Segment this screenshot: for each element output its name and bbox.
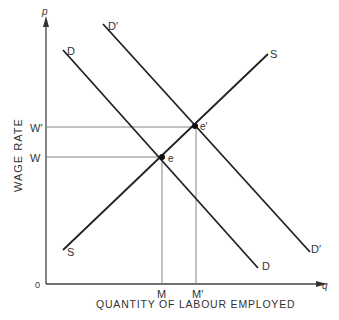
y-axis-label: WAGE RATE bbox=[12, 118, 24, 192]
m-label: M bbox=[157, 288, 166, 300]
demand-d-prime-bottom-label: D′ bbox=[311, 243, 321, 255]
y-axis-symbol: p bbox=[41, 6, 48, 17]
origin-label: 0 bbox=[35, 280, 40, 290]
demand-curve-d-prime bbox=[103, 24, 310, 252]
equilibrium-point-e bbox=[159, 154, 165, 160]
w-prime-label: W′ bbox=[30, 122, 42, 134]
labour-market-diagram: p q 0 WAGE RATE QUANTITY OF LABOUR EMPLO… bbox=[0, 0, 339, 320]
w-label: W bbox=[30, 152, 41, 164]
equilibrium-point-e-prime bbox=[192, 123, 198, 129]
demand-d-top-label: D bbox=[67, 45, 75, 57]
y-axis-arrow-icon bbox=[43, 16, 49, 27]
supply-s-bottom-label: S bbox=[67, 246, 74, 258]
supply-s-top-label: S bbox=[270, 48, 277, 60]
m-prime-label: M′ bbox=[192, 288, 203, 300]
point-e-label: e bbox=[168, 153, 174, 164]
demand-d-bottom-label: D bbox=[262, 260, 270, 272]
demand-d-prime-top-label: D′ bbox=[108, 20, 118, 32]
point-e-prime-label: e′ bbox=[200, 121, 208, 132]
x-axis-symbol: q bbox=[322, 280, 328, 291]
